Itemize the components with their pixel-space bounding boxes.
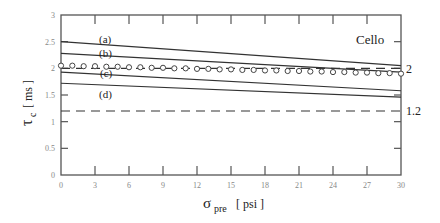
x-tick-label: 27: [363, 181, 371, 190]
data-point-circle: [387, 71, 392, 76]
data-point-circle: [92, 64, 97, 69]
x-tick-label: 9: [161, 181, 165, 190]
right-label-1-2: 1.2: [406, 104, 421, 118]
x-tick-label: 0: [59, 181, 63, 190]
y-tick-label: 1: [51, 118, 55, 127]
data-point-circle: [398, 71, 403, 76]
curve-label-c: (c): [100, 67, 113, 80]
x-tick-label: 24: [329, 181, 337, 190]
svg-text:c: c: [27, 112, 38, 117]
curve-label-b: (b): [99, 47, 112, 60]
data-point-circle: [342, 69, 347, 74]
svg-text:σ: σ: [203, 195, 211, 211]
data-point-circle: [115, 64, 120, 69]
y-tick-label: 2: [51, 64, 55, 73]
curve-label-d: (d): [99, 88, 112, 101]
data-point-circle: [70, 63, 75, 68]
data-point-circle: [228, 67, 233, 72]
y-tick-label: 0: [51, 171, 55, 180]
data-point-circle: [81, 64, 86, 69]
data-point-circle: [353, 70, 358, 75]
series-line: [61, 42, 401, 66]
y-tick-label: 0.5: [45, 144, 55, 153]
y-tick-label: 1.5: [45, 91, 55, 100]
data-point-circle: [251, 67, 256, 72]
data-point-circle: [126, 65, 131, 70]
data-point-circle: [285, 68, 290, 73]
data-point-circle: [172, 66, 177, 71]
data-point-circle: [58, 63, 63, 68]
x-tick-label: 3: [93, 181, 97, 190]
data-point-circle: [183, 66, 188, 71]
x-axis-title: σ pre [ psi ]: [203, 195, 264, 214]
curve-label-a: (a): [99, 33, 112, 46]
tau-vs-pressure-chart: 03691215182124273000.511.522.53 Cello (a…: [0, 0, 440, 223]
data-point-circle: [274, 68, 279, 73]
y-tick-label: 2.5: [45, 38, 55, 47]
data-point-circle: [149, 65, 154, 70]
y-tick-label: 3: [51, 11, 55, 20]
svg-text:τ: τ: [18, 119, 35, 126]
x-tick-label: 12: [193, 181, 201, 190]
x-tick-label: 30: [397, 181, 405, 190]
x-tick-label: 6: [127, 181, 131, 190]
series-line: [61, 83, 401, 97]
data-point-circle: [376, 71, 381, 76]
data-point-circle: [262, 68, 267, 73]
data-point-circle: [206, 66, 211, 71]
data-point-circle: [319, 69, 324, 74]
y-axis-title: τ c [ ms ]: [18, 80, 38, 126]
x-tick-label: 18: [261, 181, 269, 190]
cello-annotation: Cello: [356, 32, 384, 47]
x-tick-label: 21: [295, 181, 303, 190]
data-point-circle: [240, 67, 245, 72]
data-point-circle: [160, 65, 165, 70]
data-point-circle: [217, 67, 222, 72]
data-point-circle: [364, 70, 369, 75]
svg-text:pre: pre: [214, 203, 227, 214]
data-point-circle: [194, 66, 199, 71]
right-label-2: 2: [406, 62, 412, 76]
data-point-circle: [138, 65, 143, 70]
data-point-circle: [330, 69, 335, 74]
x-tick-label: 15: [227, 181, 235, 190]
data-point-circle: [296, 68, 301, 73]
svg-text:[ ms ]: [ ms ]: [21, 80, 35, 108]
data-point-circle: [308, 69, 313, 74]
svg-text:[ psi ]: [ psi ]: [236, 197, 264, 211]
